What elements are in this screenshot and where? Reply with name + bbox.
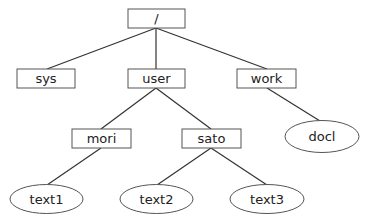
node-text3-label: text3 <box>250 192 284 207</box>
node-text2-label: text2 <box>140 192 174 207</box>
edge-root-sys <box>47 28 156 69</box>
node-sato-label: sato <box>198 131 226 146</box>
node-sys: sys <box>17 69 75 88</box>
node-text1-label: text1 <box>30 192 64 207</box>
edge-mori-text1 <box>47 148 101 185</box>
node-text3: text3 <box>230 185 304 214</box>
node-sato: sato <box>182 129 241 148</box>
node-text2: text2 <box>120 185 193 214</box>
node-root: / <box>128 9 185 28</box>
edge-user-mori <box>101 88 156 129</box>
directory-tree-diagram: / sys user work mori sato docl text1 tex… <box>0 0 374 224</box>
edges <box>47 28 320 185</box>
edge-root-work <box>156 28 267 69</box>
node-work: work <box>237 69 296 88</box>
node-text1: text1 <box>10 185 83 214</box>
node-sys-label: sys <box>35 71 56 86</box>
node-docl-label: docl <box>309 129 336 144</box>
edge-work-docl <box>267 88 320 121</box>
node-mori-label: mori <box>87 131 117 146</box>
node-user-label: user <box>142 71 171 86</box>
node-user: user <box>128 69 185 88</box>
node-root-label: / <box>154 11 159 26</box>
edge-user-sato <box>156 88 211 129</box>
edge-sato-text2 <box>157 148 211 185</box>
node-mori: mori <box>72 129 131 148</box>
node-work-label: work <box>251 71 283 86</box>
edge-sato-text3 <box>211 148 267 185</box>
node-docl: docl <box>285 121 359 153</box>
